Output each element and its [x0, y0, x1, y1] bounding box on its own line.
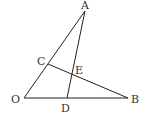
point-label-d: D — [61, 102, 70, 115]
point-label-e: E — [75, 64, 83, 77]
point-label-c: C — [37, 55, 45, 68]
point-label-a: A — [80, 0, 90, 12]
point-label-b: B — [131, 93, 139, 106]
geometry-diagram: AOBCDE — [0, 0, 146, 125]
point-label-o: O — [11, 93, 20, 106]
segment-cb — [48, 64, 128, 98]
